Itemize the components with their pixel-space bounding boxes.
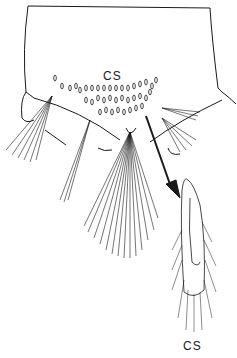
tergite-plate-outline <box>28 6 222 92</box>
label-cs-bottom: CS <box>183 339 202 353</box>
left-setae-tuft <box>6 96 90 202</box>
insect-segment-illustration <box>0 0 237 358</box>
label-cs-top: CS <box>103 69 122 83</box>
central-fan-setae <box>84 132 158 258</box>
enlarged-scale-fringe <box>172 222 216 332</box>
enlarged-comb-scale <box>181 179 204 296</box>
arrow-to-enlarged-scale <box>146 116 180 198</box>
